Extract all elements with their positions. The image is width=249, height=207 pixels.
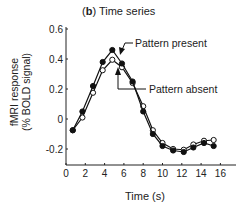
y-tick-label: 0.6 [49,24,63,35]
series-pattern-present [70,47,216,154]
y-tick-label: 0.2 [49,84,63,95]
x-tick-label: 14 [196,168,208,179]
filled-circle-marker [110,47,115,52]
x-tick-label: 0 [63,168,69,179]
x-axis-label: Time (s) [125,190,165,202]
filled-circle-marker [119,61,124,66]
filled-circle-marker [181,149,186,154]
filled-circle-marker [160,143,165,148]
filled-circle-marker [141,109,146,114]
filled-circle-marker [100,59,105,64]
annotation-pattern-present-label: Pattern present [135,37,207,49]
x-tick-label: 10 [157,168,169,179]
y-tick-label: 0 [57,114,63,125]
y-axis-label: fMRI response (% BOLD signal) [8,53,32,131]
filled-circle-marker [171,148,176,153]
x-tick-label: 12 [176,168,188,179]
y-axis-label-line2: (% BOLD signal) [20,53,32,131]
open-circle-marker [211,137,216,142]
filled-circle-marker [70,128,75,133]
series-pattern-absent [70,57,216,152]
title-text: Time series [99,5,156,17]
y-axis-label-line1: fMRI response [8,58,20,126]
x-tick-label: 4 [102,168,108,179]
filled-circle-marker [90,83,95,88]
x-tick-label: 8 [140,168,146,179]
chart-title: (b) Time series [82,5,156,17]
annotation-pattern-present: Pattern present [119,37,207,55]
open-circle-marker [100,68,105,73]
filled-circle-marker [211,143,216,148]
filled-circle-marker [150,131,155,136]
filled-circle-marker [201,140,206,145]
y-tick-label: 0.4 [49,54,63,65]
y-tick-label: -0.2 [46,144,64,155]
open-circle-marker [110,57,115,62]
x-tick-label: 6 [121,168,127,179]
series-line [73,50,214,152]
x-tick-label: 2 [83,168,89,179]
time-series-chart: (b) Time series 02468101214160.60.40.20-… [0,0,249,207]
filled-circle-marker [191,145,196,150]
annotation-pattern-absent-label: Pattern absent [149,83,217,95]
data-series [70,47,216,154]
filled-circle-marker [130,79,135,84]
filled-circle-marker [80,109,85,114]
x-tick-label: 16 [215,168,227,179]
